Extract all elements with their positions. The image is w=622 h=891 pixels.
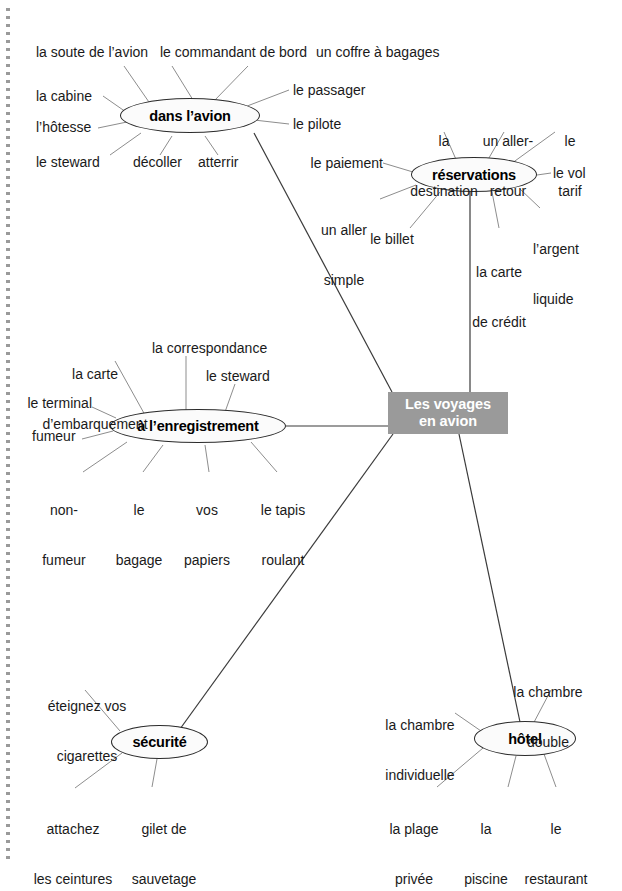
- leaf-la-plage-privee: la plage privée: [389, 788, 438, 891]
- leaf-la-destination: la destination: [410, 100, 478, 232]
- leaf-le-bagage-line1: le: [116, 502, 163, 519]
- leaf-le-commandant-de-bord: le commandant de bord: [160, 44, 307, 61]
- leaf-eteignez-vos-cigarettes-line2: cigarettes: [48, 748, 127, 765]
- branch-node-dans-lavion[interactable]: dans l’avion: [120, 98, 260, 133]
- leaf-la-piscine: la piscine: [464, 788, 508, 891]
- leaf-le-tapis-roulant-line2: roulant: [261, 552, 305, 569]
- leaf-la-carte-de-credit: la carte de crédit: [472, 231, 526, 363]
- leaf-eteignez-vos-cigarettes: éteignez vos cigarettes: [48, 665, 127, 797]
- leaf-largent-liquide-line2: liquide: [533, 291, 579, 308]
- leaf-la-soute-de-lavion: la soute de l’avion: [36, 44, 148, 61]
- leaf-eteignez-vos-cigarettes-line1: éteignez vos: [48, 698, 127, 715]
- dotted-margin-rule: [6, 8, 10, 861]
- leaf-un-aller-simple-line1: un aller: [321, 222, 367, 239]
- leaf-un-aller-retour-line2: retour: [483, 183, 534, 200]
- leaf-le-bagage: le bagage: [116, 469, 163, 601]
- leaf-attachez-les-ceintures-line1: attachez: [34, 821, 113, 838]
- leaf-le-passager: le passager: [293, 82, 365, 99]
- leaf-vos-papiers: vos papiers: [184, 469, 230, 601]
- leaf-la-chambre-double: la chambre double: [513, 651, 582, 783]
- leaf-le-vol: le vol: [553, 165, 586, 182]
- leaf-le-tapis-roulant: le tapis roulant: [261, 469, 305, 601]
- leaf-la-piscine-line1: la: [464, 821, 508, 838]
- leaf-la-carte-de-credit-line2: de crédit: [472, 314, 526, 331]
- leaf-la-chambre-double-line2: double: [513, 734, 582, 751]
- leaf-gilet-de-sauvetage: gilet de sauvetage: [132, 788, 197, 891]
- leaf-largent-liquide: l’argent liquide: [533, 208, 579, 340]
- leaf-la-chambre-individuelle-line1: la chambre: [385, 717, 454, 734]
- leaf-gilet-de-sauvetage-line2: sauvetage: [132, 871, 197, 888]
- leaf-la-chambre-individuelle-line2: individuelle: [385, 767, 454, 784]
- leaf-la-carte-de-credit-line1: la carte: [472, 264, 526, 281]
- leaf-vos-papiers-line2: papiers: [184, 552, 230, 569]
- center-node-les-voyages-en-avion[interactable]: Les voyages en avion: [388, 392, 508, 434]
- trunk-hotel: [459, 434, 520, 722]
- leaf-vos-papiers-line1: vos: [184, 502, 230, 519]
- leaf-non-fumeur-line1: non-: [42, 502, 86, 519]
- leaf-le-billet: le billet: [370, 231, 414, 248]
- leaf-attachez-les-ceintures-line2: les ceintures: [34, 871, 113, 888]
- leaf-non-fumeur-line2: fumeur: [42, 552, 86, 569]
- leaf-le-paiement: le paiement: [311, 155, 383, 172]
- leaf-le-restaurant-line1: le: [524, 821, 587, 838]
- center-node-line1: Les voyages: [405, 396, 491, 413]
- leaf-lhotesse: l’hôtesse: [36, 119, 91, 136]
- leaf-le-bagage-line2: bagage: [116, 552, 163, 569]
- leaf-un-coffre-a-bagages: un coffre à bagages: [316, 44, 440, 61]
- leaf-le-steward-enregistrement: le steward: [206, 368, 270, 385]
- leaf-la-destination-line1: la: [410, 133, 478, 150]
- leaf-la-correspondance: la correspondance: [152, 340, 267, 357]
- leaf-non-fumeur: non- fumeur: [42, 469, 86, 601]
- leaf-le-tarif-line2: tarif: [558, 183, 581, 200]
- leaf-le-restaurant: le restaurant: [524, 788, 587, 891]
- center-node-text: Les voyages en avion: [405, 396, 491, 430]
- leaf-la-plage-privee-line2: privée: [389, 871, 438, 888]
- leaf-la-destination-line2: destination: [410, 183, 478, 200]
- leaf-le-tarif-line1: le: [558, 133, 581, 150]
- leaf-le-restaurant-line2: restaurant: [524, 871, 587, 888]
- leaf-la-plage-privee-line1: la plage: [389, 821, 438, 838]
- leaf-la-cabine: la cabine: [36, 88, 92, 105]
- leaf-attachez-les-ceintures: attachez les ceintures: [34, 788, 113, 891]
- leaf-fumeur: fumeur: [32, 428, 76, 445]
- leaf-un-aller-retour-line1: un aller-: [483, 133, 534, 150]
- center-node-line2: en avion: [405, 413, 491, 430]
- leaf-gilet-de-sauvetage-line1: gilet de: [132, 821, 197, 838]
- leaf-le-tapis-roulant-line1: le tapis: [261, 502, 305, 519]
- leaf-la-chambre-double-line1: la chambre: [513, 684, 582, 701]
- leaf-decoller: décoller: [133, 154, 182, 171]
- leaf-la-carte-dembarquement-line1: la carte: [42, 366, 147, 383]
- leaf-un-aller-simple-line2: simple: [321, 272, 367, 289]
- leaf-le-terminal: le terminal: [27, 395, 92, 412]
- leaf-un-aller-simple: un aller simple: [321, 189, 367, 321]
- leaf-la-piscine-line2: piscine: [464, 871, 508, 888]
- leaf-un-aller-retour: un aller- retour: [483, 100, 534, 232]
- leaf-le-steward-avion: le steward: [36, 154, 100, 171]
- leaf-le-pilote: le pilote: [293, 116, 341, 133]
- leaf-largent-liquide-line1: l’argent: [533, 241, 579, 258]
- leaf-atterrir: atterrir: [198, 154, 238, 171]
